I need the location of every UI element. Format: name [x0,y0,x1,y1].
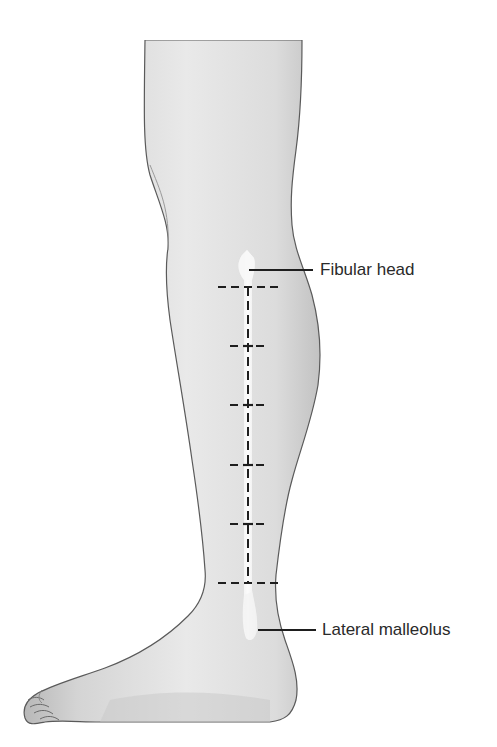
lateral-malleolus-label: Lateral malleolus [322,621,451,638]
leg-silhouette [24,40,320,724]
fibular-head-label: Fibular head [320,261,415,278]
